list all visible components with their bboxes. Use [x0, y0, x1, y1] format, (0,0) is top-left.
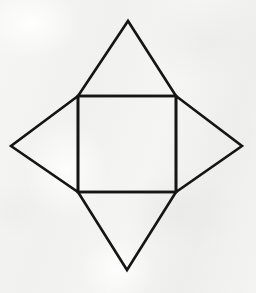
geometric-figure-svg: Square with four isosceles triangles (fo… — [0, 0, 256, 293]
central-square — [78, 96, 176, 192]
left-triangle — [11, 96, 78, 192]
top-triangle — [78, 21, 176, 96]
bottom-triangle — [78, 192, 176, 270]
right-triangle — [176, 96, 242, 192]
figure-canvas: Square with four isosceles triangles (fo… — [0, 0, 256, 293]
